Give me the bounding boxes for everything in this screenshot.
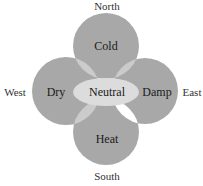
label-east: East [183, 86, 202, 98]
label-neutral: Neutral [89, 85, 126, 99]
compass-qualities-diagram: Cold Dry Neutral Damp Heat North South W… [0, 0, 203, 186]
label-heat: Heat [96, 132, 119, 146]
label-north: North [94, 0, 120, 12]
label-damp: Damp [142, 85, 171, 99]
label-south: South [94, 170, 120, 182]
label-dry: Dry [47, 85, 66, 99]
label-west: West [4, 86, 26, 98]
label-cold: Cold [94, 39, 117, 53]
